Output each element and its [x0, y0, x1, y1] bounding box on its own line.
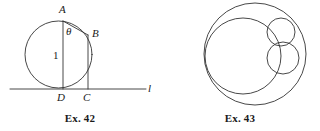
outer-circle — [204, 3, 306, 105]
angle-label-theta: θ — [66, 26, 71, 37]
point-label-a: A — [59, 4, 66, 15]
figure-sheet: A θ 1 B D C l Ex. 42 Ex. 43 — [0, 0, 320, 131]
caption-ex43: Ex. 43 — [160, 112, 320, 124]
large-inner-circle — [205, 18, 281, 94]
point-label-b: B — [92, 28, 99, 39]
point-label-d: D — [57, 92, 65, 103]
circle-shape — [25, 21, 92, 88]
line-label-l: l — [148, 83, 151, 94]
caption-ex42: Ex. 42 — [0, 112, 160, 124]
right-small-circle — [267, 42, 299, 74]
figure-ex43: Ex. 43 — [160, 0, 320, 131]
length-label-one: 1 — [53, 50, 59, 61]
point-label-c: C — [83, 92, 90, 103]
figure-ex42: A θ 1 B D C l Ex. 42 — [0, 0, 160, 131]
